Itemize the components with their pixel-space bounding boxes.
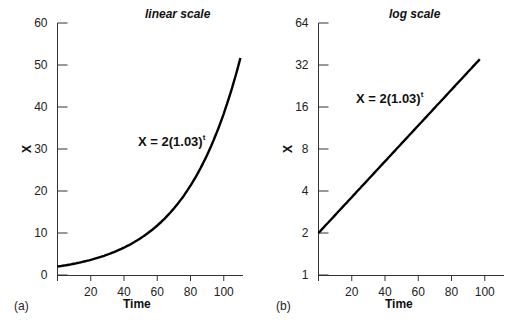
panel-a-label: (a) xyxy=(14,299,29,313)
panel-b-y-label: X xyxy=(281,145,295,153)
panel-b-log: log scale 1248163264 20406080100 X Time … xyxy=(276,7,504,313)
panel-b-line xyxy=(319,59,480,233)
y-tick-label: 4 xyxy=(302,184,309,198)
y-tick-label: 1 xyxy=(302,268,309,282)
y-tick-label: 20 xyxy=(34,184,48,198)
x-tick-label: 20 xyxy=(84,285,98,299)
y-tick-label: 8 xyxy=(302,142,309,156)
x-tick-label: 80 xyxy=(445,285,459,299)
panel-b-x-ticks: 20406080100 xyxy=(319,275,496,299)
panel-a-equation-exponent: t xyxy=(203,133,206,142)
y-tick-label: 64 xyxy=(295,16,309,30)
figure: linear scale 0102030405060 20406080100 X… xyxy=(0,0,516,325)
panel-a-linear: linear scale 0102030405060 20406080100 X… xyxy=(14,7,243,313)
panel-b-x-label: Time xyxy=(385,297,413,311)
y-tick-label: 40 xyxy=(34,100,48,114)
panel-a-equation: X = 2(1.03)t xyxy=(138,133,206,149)
panel-b-label: (b) xyxy=(276,299,291,313)
y-tick-label: 30 xyxy=(34,142,48,156)
panel-a-curve xyxy=(58,58,241,267)
y-tick-label: 32 xyxy=(295,58,309,72)
panel-a-x-ticks: 20406080100 xyxy=(58,275,235,299)
x-tick-label: 60 xyxy=(151,285,165,299)
y-tick-label: 2 xyxy=(302,226,309,240)
panel-a-title: linear scale xyxy=(145,7,211,21)
x-tick-label: 80 xyxy=(184,285,198,299)
y-tick-label: 50 xyxy=(34,58,48,72)
y-tick-label: 0 xyxy=(41,268,48,282)
x-tick-label: 60 xyxy=(412,285,426,299)
panel-b-equation-exponent: t xyxy=(421,90,424,99)
panel-a-equation-base: X = 2(1.03) xyxy=(138,134,203,149)
panel-b-y-ticks: 1248163264 xyxy=(295,16,328,282)
y-tick-label: 60 xyxy=(34,16,48,30)
x-tick-label: 100 xyxy=(475,285,495,299)
panel-a-y-label: X xyxy=(20,145,34,153)
panel-b-equation: X = 2(1.03)t xyxy=(356,90,424,106)
y-tick-label: 16 xyxy=(295,100,309,114)
x-tick-label: 20 xyxy=(345,285,359,299)
panel-b-title: log scale xyxy=(389,7,441,21)
x-tick-label: 100 xyxy=(214,285,234,299)
panel-b-equation-base: X = 2(1.03) xyxy=(356,91,421,106)
panel-a-x-label: Time xyxy=(123,297,151,311)
panel-a-y-ticks: 0102030405060 xyxy=(34,16,67,282)
y-tick-label: 10 xyxy=(34,226,48,240)
